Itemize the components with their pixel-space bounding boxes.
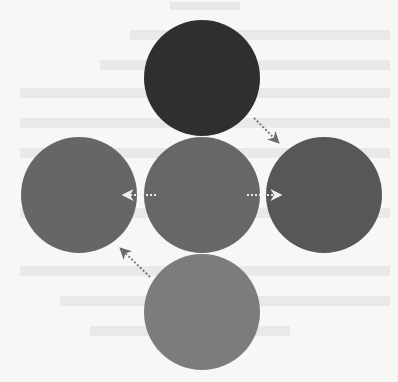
right-color-node [266, 137, 382, 253]
bottom-color-node [144, 254, 260, 370]
color-node-diagram [0, 0, 398, 382]
left-color-node [21, 137, 137, 253]
center-color-node [144, 137, 260, 253]
top-color-node [144, 20, 260, 136]
